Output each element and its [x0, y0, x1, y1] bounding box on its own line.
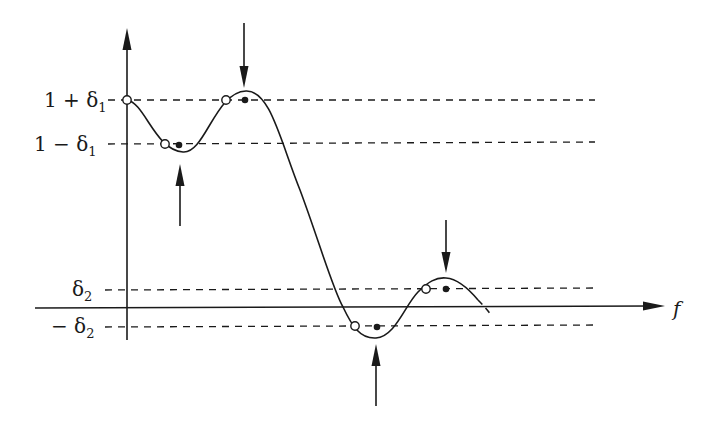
filled-point	[176, 142, 183, 149]
arrow-down-icon	[442, 252, 451, 273]
extremum-arrow-down-2	[442, 220, 451, 273]
open-point	[161, 140, 169, 148]
filled-point	[443, 286, 450, 293]
label-upper-passband: 1 + δ1	[44, 88, 107, 115]
extremal-frequency-points	[176, 97, 450, 331]
extremum-arrow-up-2	[372, 344, 381, 406]
open-point	[123, 96, 131, 104]
extremum-arrow-down-1	[240, 23, 249, 88]
x-axis-arrowhead-icon	[643, 302, 665, 311]
label-lower-stopband: − δ2	[51, 314, 94, 341]
x-axis	[35, 302, 665, 311]
upper-stopband-line	[105, 288, 595, 290]
label-lower-passband: 1 − δ1	[34, 132, 97, 159]
open-point	[422, 285, 430, 293]
y-axis-arrowhead-icon	[123, 28, 132, 50]
open-point	[351, 322, 359, 330]
arrow-up-icon	[372, 344, 381, 366]
filled-point	[242, 97, 249, 104]
open-point	[222, 96, 230, 104]
x-axis-label: f	[671, 297, 684, 321]
arrow-down-icon	[240, 66, 249, 88]
label-upper-stopband: δ2	[72, 277, 92, 304]
lower-stopband-line	[105, 325, 595, 327]
filter-response-diagram: f 1 + δ1 1 − δ1 δ2 − δ2	[0, 0, 709, 425]
y-axis	[123, 28, 132, 340]
filled-point	[374, 324, 381, 331]
frequency-response-continuation	[478, 300, 492, 316]
arrow-up-icon	[176, 164, 185, 186]
extremum-arrow-up-1	[176, 164, 185, 226]
band-edge-points	[123, 96, 430, 330]
